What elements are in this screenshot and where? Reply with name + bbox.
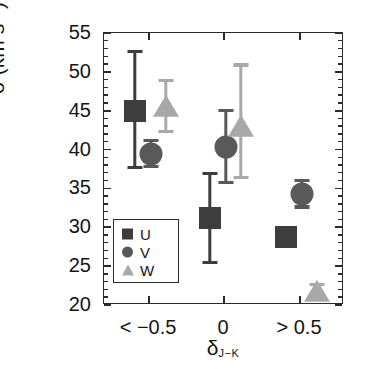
legend: U V W	[113, 219, 179, 283]
legend-triangle-icon	[122, 265, 134, 276]
data-point-triangle	[228, 115, 254, 137]
x-axis-title-subscript: J−K	[218, 347, 239, 359]
legend-circle-icon	[122, 247, 133, 258]
data-point-square	[199, 207, 221, 229]
data-point-circle	[140, 143, 163, 166]
y-tick-label: 45	[69, 100, 91, 120]
error-bar-cap	[234, 176, 249, 179]
error-bar-cap	[128, 166, 143, 169]
y-axis-major-tick	[104, 304, 111, 306]
data-point-square	[275, 226, 297, 248]
y-tick-label: 20	[69, 294, 91, 314]
x-axis-title-main: δ	[207, 336, 219, 359]
y-tick-label: 30	[69, 216, 91, 236]
y-axis-title: σ (km s−1)	[0, 0, 9, 168]
data-point-triangle	[153, 95, 179, 117]
legend-square-icon	[122, 229, 133, 240]
velocity-dispersion-chart: 55 50 45 40 35 30 25 20 σ (km s−1) U V W	[0, 0, 371, 369]
y-axis-tick-labels: 55 50 45 40 35 30 25 20	[0, 32, 99, 304]
legend-label: V	[140, 245, 150, 260]
error-bar-cap	[203, 172, 218, 175]
y-tick-label: 25	[69, 255, 91, 275]
error-bar-cap	[159, 79, 174, 82]
y-tick-label: 40	[69, 139, 91, 159]
error-bar-cap	[219, 109, 234, 112]
plot-area: U V W	[103, 32, 343, 304]
data-point-circle	[215, 136, 238, 159]
legend-item-u: U	[120, 225, 176, 243]
legend-item-w: W	[120, 261, 176, 279]
legend-item-v: V	[120, 243, 176, 261]
y-tick-label: 50	[69, 61, 91, 81]
error-bar-cap	[219, 181, 234, 184]
x-axis-title: δJ−K	[103, 336, 343, 360]
y-axis-title-main: σ (km s	[0, 24, 8, 94]
error-bar-cap	[295, 205, 310, 208]
y-tick-label: 35	[69, 177, 91, 197]
error-bar-cap	[128, 50, 143, 53]
data-point-triangle	[304, 279, 330, 301]
error-bar-cap	[159, 130, 174, 133]
error-bar-cap	[234, 63, 249, 66]
y-axis-major-tick	[335, 304, 342, 306]
data-point-square	[124, 100, 146, 122]
y-tick-label: 55	[69, 22, 91, 42]
error-bar-cap	[203, 261, 218, 264]
legend-label: W	[140, 263, 154, 278]
error-bar-cap	[144, 139, 159, 142]
y-axis-title-tail: )	[0, 2, 8, 9]
data-point-circle	[291, 182, 314, 205]
legend-label: U	[140, 227, 151, 242]
